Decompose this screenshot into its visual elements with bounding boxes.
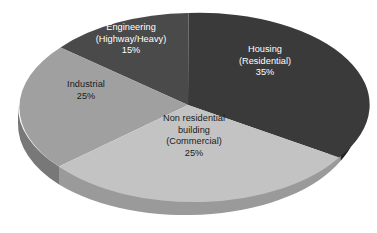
pie-chart-canvas bbox=[0, 0, 377, 233]
pie-chart-figure: Engineering (Highway/Heavy) 15% Housing … bbox=[0, 0, 377, 233]
